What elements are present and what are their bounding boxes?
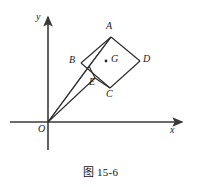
point-label-c: C <box>106 89 113 99</box>
figure-page: y x O A B C D E G 图 15-6 <box>0 0 201 187</box>
x-axis-label: x <box>170 125 174 135</box>
point-label-a: A <box>106 21 112 31</box>
segment-O-E <box>48 78 95 122</box>
geometry-diagram <box>0 0 201 187</box>
figure-caption: 图 15-6 <box>0 163 201 179</box>
point-marker-g <box>105 60 108 63</box>
square-side-C-left <box>81 63 110 88</box>
square-side-left-A <box>81 37 111 63</box>
segment-O-B <box>48 66 89 122</box>
point-label-e: E <box>89 77 95 87</box>
y-axis-label: y <box>36 12 40 22</box>
square-side-D-C <box>110 61 140 88</box>
point-label-b: B <box>69 55 75 65</box>
segment-E-C <box>95 78 110 88</box>
point-label-g: G <box>111 54 118 64</box>
point-label-d: D <box>143 54 150 64</box>
origin-label: O <box>38 124 45 134</box>
